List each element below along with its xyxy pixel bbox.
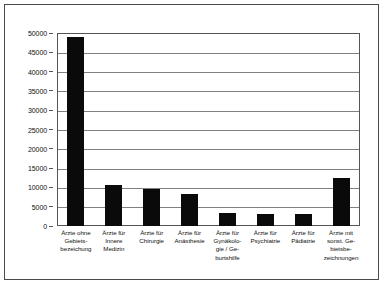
bar[interactable] (295, 214, 312, 226)
x-category-label: Ärzte für Pädiatrie (284, 229, 322, 245)
x-category-label: Ärzte für Chirurgie (133, 229, 171, 245)
bar[interactable] (181, 194, 198, 226)
x-category-label: Ärzte für Gynäkolo- gie / Ge- burtshilfe (209, 229, 247, 262)
gridline (58, 111, 359, 112)
y-tick-mark (49, 90, 53, 91)
y-tick-mark (49, 148, 53, 149)
gridline (58, 169, 359, 170)
y-tick-mark (49, 226, 53, 227)
bar[interactable] (333, 178, 350, 226)
gridline (58, 149, 359, 150)
x-category-label: Ärzte für Innere Medizin (95, 229, 133, 254)
y-tick-label: 30000 (28, 107, 47, 114)
y-tick-label: 40000 (28, 68, 47, 75)
y-tick-mark (49, 206, 53, 207)
x-category-label: Ärzte ohne Gebiets- bezeichung (57, 229, 95, 254)
gridline (58, 91, 359, 92)
gridline (58, 72, 359, 73)
y-tick-label: 50000 (28, 30, 47, 37)
y-tick-mark (49, 129, 53, 130)
y-tick-label: 45000 (28, 49, 47, 56)
gridline (58, 207, 359, 208)
plot-area (57, 33, 360, 226)
x-category-label: Ärzte mit sonst. Ge- bietsbe- zeichnunge… (322, 229, 360, 262)
bar[interactable] (219, 213, 236, 226)
y-tick-label: 15000 (28, 165, 47, 172)
y-tick-label: 10000 (28, 184, 47, 191)
y-tick-label: 0 (43, 223, 47, 230)
y-tick-mark (49, 187, 53, 188)
y-axis: 5000045000400003500030000250002000015000… (0, 33, 53, 226)
x-category-label: Ärzte für Anästhesie (171, 229, 209, 245)
bar[interactable] (143, 189, 160, 226)
y-tick-label: 25000 (28, 126, 47, 133)
y-tick-mark (49, 71, 53, 72)
bar[interactable] (257, 214, 274, 226)
gridline (58, 188, 359, 189)
y-tick-mark (49, 168, 53, 169)
y-tick-mark (49, 110, 53, 111)
bar-chart-figure: 5000045000400003500030000250002000015000… (0, 0, 387, 289)
bar[interactable] (67, 37, 84, 226)
y-tick-label: 35000 (28, 87, 47, 94)
gridline (58, 130, 359, 131)
bar[interactable] (105, 185, 122, 226)
y-tick-label: 20000 (28, 145, 47, 152)
y-tick-label: 5000 (32, 203, 47, 210)
y-tick-mark (49, 52, 53, 53)
x-category-label: Ärzte für Psychiatrie (246, 229, 284, 245)
gridline (58, 53, 359, 54)
y-tick-mark (49, 33, 53, 34)
x-axis: Ärzte ohne Gebiets- bezeichungÄrzte für … (57, 229, 360, 285)
